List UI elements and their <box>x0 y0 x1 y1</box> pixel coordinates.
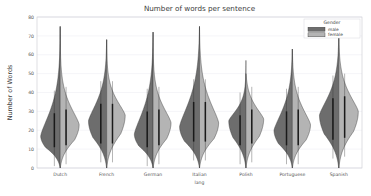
y-tick-label: 10 <box>28 147 34 152</box>
y-axis-tick-labels: 01020304050607080 <box>28 15 34 171</box>
y-tick-label: 70 <box>28 34 34 39</box>
legend[interactable]: Gendermalefemale <box>304 19 360 38</box>
x-tick-label: Portuguese <box>279 172 305 177</box>
violin-chart-figure: 01020304050607080 DutchFrenchGermanItali… <box>0 0 371 196</box>
y-tick-label: 80 <box>28 15 34 20</box>
y-tick-label: 0 <box>31 166 34 171</box>
chart-canvas: 01020304050607080 DutchFrenchGermanItali… <box>0 0 371 196</box>
x-tick-label: Spanish <box>330 172 348 177</box>
chart-title: Number of words per sentence <box>144 4 256 13</box>
y-tick-label: 30 <box>28 109 34 114</box>
x-axis-label: lang <box>195 180 205 185</box>
legend-swatch-female[interactable] <box>308 33 325 37</box>
x-tick-label: Italian <box>192 172 206 177</box>
y-tick-label: 60 <box>28 52 34 57</box>
legend-label-male: male <box>328 27 339 32</box>
x-tick-label: Polish <box>239 172 252 177</box>
legend-label-female: female <box>328 32 343 37</box>
x-tick-label: Dutch <box>53 172 67 177</box>
y-axis-label: Number of Words <box>6 64 14 120</box>
y-tick-label: 20 <box>28 128 34 133</box>
y-tick-label: 50 <box>28 71 34 76</box>
legend-swatch-male[interactable] <box>308 27 325 31</box>
x-tick-label: French <box>99 172 114 177</box>
x-tick-label: German <box>144 172 162 177</box>
y-tick-label: 40 <box>28 90 34 95</box>
legend-title: Gender <box>324 20 341 25</box>
